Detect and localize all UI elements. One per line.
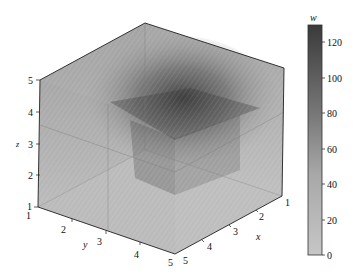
colorbar-tick-40: 40 bbox=[327, 179, 337, 190]
z-tick-5: 5 bbox=[28, 75, 33, 86]
z-axis: 5 4 3 2 1 z bbox=[15, 75, 40, 212]
y-tick-3: 3 bbox=[97, 236, 102, 247]
colorbar-label: w bbox=[310, 12, 317, 23]
colorbar: w 0 20 40 60 80 100 120 bbox=[308, 12, 342, 261]
y-axis-label: y bbox=[82, 239, 88, 250]
x-tick-3: 3 bbox=[233, 226, 238, 237]
z-tick-2: 2 bbox=[28, 170, 33, 181]
volume-chart: 5 4 3 2 1 z 1 2 3 4 5 y 1 2 3 4 5 x bbox=[0, 0, 357, 280]
y-tick-1: 1 bbox=[26, 210, 31, 221]
x-tick-5: 5 bbox=[183, 255, 188, 266]
colorbar-tick-0: 0 bbox=[327, 250, 332, 261]
x-axis-label: x bbox=[255, 231, 261, 242]
colorbar-tick-100: 100 bbox=[327, 73, 342, 84]
x-tick-2: 2 bbox=[259, 211, 264, 222]
y-tick-5: 5 bbox=[168, 257, 173, 268]
y-tick-4: 4 bbox=[134, 249, 139, 260]
z-tick-4: 4 bbox=[28, 107, 33, 118]
x-tick-1: 1 bbox=[285, 197, 290, 208]
colorbar-tick-120: 120 bbox=[327, 37, 342, 48]
colorbar-gradient bbox=[308, 25, 322, 255]
y-tick-2: 2 bbox=[61, 224, 66, 235]
x-tick-4: 4 bbox=[207, 241, 212, 252]
colorbar-tick-20: 20 bbox=[327, 215, 337, 226]
volume-cube bbox=[38, 23, 284, 254]
z-tick-3: 3 bbox=[28, 139, 33, 150]
z-axis-label: z bbox=[15, 140, 20, 149]
colorbar-tick-60: 60 bbox=[327, 144, 337, 155]
colorbar-tick-80: 80 bbox=[327, 108, 337, 119]
